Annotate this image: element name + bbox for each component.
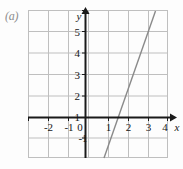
x-tick-label-4: 4 xyxy=(162,121,168,133)
x-tick-label-1: 1 xyxy=(106,121,112,133)
y-axis-label: y xyxy=(76,10,82,22)
x-tick-label-neg2: -2 xyxy=(44,121,53,133)
figure-container: (a) xyxy=(0,0,183,169)
y-tick-label-4: 4 xyxy=(75,47,81,59)
coordinate-plot: 5 4 3 2 1 -1 y -2 -1 0 1 2 3 4 x xyxy=(0,0,183,169)
y-tick-label-3: 3 xyxy=(75,69,81,81)
x-tick-label-neg1: -1 xyxy=(64,121,73,133)
x-axis-label: x xyxy=(174,121,180,133)
x-tick-label-3: 3 xyxy=(146,121,152,133)
x-tick-label-2: 2 xyxy=(126,121,132,133)
x-tick-label-0: 0 xyxy=(77,121,83,133)
y-tick-label-neg1: -1 xyxy=(78,132,87,144)
y-tick-label-5: 5 xyxy=(75,26,81,38)
y-tick-label-2: 2 xyxy=(75,90,81,102)
